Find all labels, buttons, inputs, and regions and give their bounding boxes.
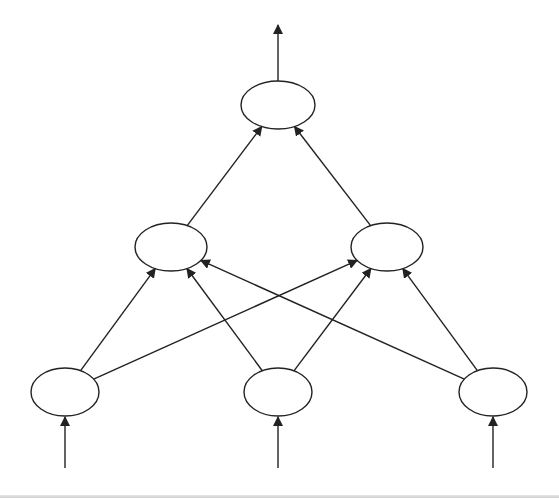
edge-h2-out-arrow bbox=[294, 126, 370, 225]
network-diagram bbox=[0, 0, 559, 498]
edge-in1-h1-arrow bbox=[81, 269, 156, 371]
nodes bbox=[31, 81, 527, 416]
input-node-in3 bbox=[459, 368, 527, 416]
edge-in3-h1-arrow bbox=[201, 260, 465, 379]
hidden-node-h2 bbox=[351, 223, 423, 271]
hidden-node-h1 bbox=[135, 223, 207, 271]
input-node-in2 bbox=[244, 368, 312, 416]
input-node-in1 bbox=[31, 368, 99, 416]
edge-h1-out-arrow bbox=[187, 127, 262, 226]
edge-in3-h2-arrow bbox=[403, 269, 478, 371]
edge-in2-h1-arrow bbox=[187, 269, 262, 371]
output-node-out bbox=[241, 81, 315, 129]
